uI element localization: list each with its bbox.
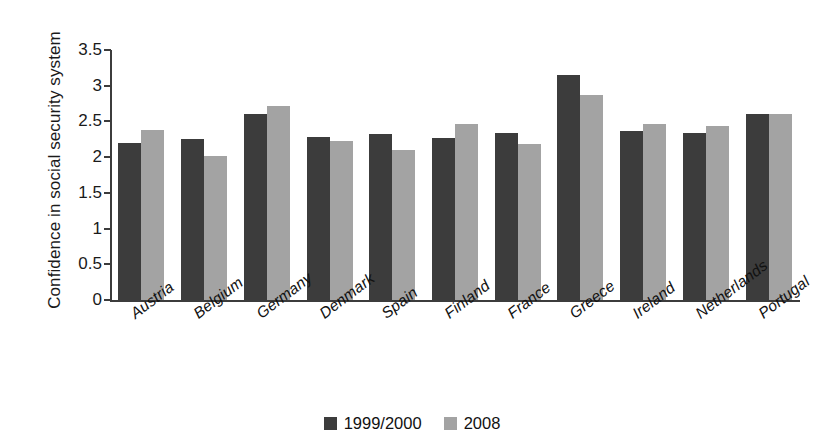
y-axis-tick-label: 0.5	[46, 254, 102, 274]
bar-group	[432, 50, 478, 300]
bar-group	[118, 50, 164, 300]
bar-group	[369, 50, 415, 300]
bar-germany-1999-2000	[244, 114, 267, 300]
legend-label: 2008	[464, 415, 501, 432]
y-axis-tick-label: 0	[46, 290, 102, 310]
bar-belgium-2008	[204, 156, 227, 300]
bar-chart: Confidence in social security system 00.…	[0, 0, 824, 446]
bar-portugal-2008	[769, 114, 792, 300]
bar-france-1999-2000	[495, 133, 518, 300]
legend-label: 1999/2000	[344, 415, 422, 432]
bar-france-2008	[518, 144, 541, 300]
legend-item: 1999/2000	[324, 415, 422, 432]
y-axis-tick-label: 3.5	[46, 40, 102, 60]
bar-denmark-2008	[330, 141, 353, 300]
y-axis-tick-label: 1	[46, 219, 102, 239]
bar-spain-1999-2000	[369, 134, 392, 300]
legend-item: 2008	[444, 415, 501, 432]
bar-netherlands-1999-2000	[683, 133, 706, 300]
y-axis-tick-label: 3	[46, 76, 102, 96]
y-axis-title: Confidence in social security system	[45, 20, 65, 320]
bar-group	[495, 50, 541, 300]
bar-group	[307, 50, 353, 300]
bar-group	[683, 50, 729, 300]
bar-greece-1999-2000	[557, 75, 580, 300]
y-axis-tick-label: 2	[46, 147, 102, 167]
bar-group	[557, 50, 603, 300]
y-axis-tick-label: 2.5	[46, 111, 102, 131]
legend-swatch-icon	[444, 417, 457, 430]
bar-austria-2008	[141, 130, 164, 300]
bar-ireland-2008	[643, 124, 666, 300]
bar-group	[181, 50, 227, 300]
bar-ireland-1999-2000	[620, 131, 643, 300]
legend-swatch-icon	[324, 417, 337, 430]
bar-netherlands-2008	[706, 126, 729, 300]
bar-group	[244, 50, 290, 300]
bar-finland-1999-2000	[432, 138, 455, 300]
plot-area	[110, 50, 800, 300]
bar-finland-2008	[455, 124, 478, 300]
bar-germany-2008	[267, 106, 290, 300]
bar-belgium-1999-2000	[181, 139, 204, 300]
bar-greece-2008	[580, 95, 603, 300]
bar-spain-2008	[392, 150, 415, 300]
bar-austria-1999-2000	[118, 143, 141, 300]
chart-legend: 1999/20002008	[0, 415, 824, 432]
bar-group	[620, 50, 666, 300]
y-axis-tick-label: 1.5	[46, 183, 102, 203]
